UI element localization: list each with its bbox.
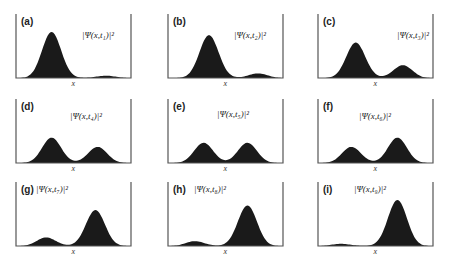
probability-density-area <box>318 138 433 163</box>
x-axis-label: x <box>72 247 76 256</box>
panel-b: (b)|Ψ(x,t₂)|²x <box>152 0 302 84</box>
probability-density-area <box>168 35 283 78</box>
panel-g: (g)|Ψ(x,t₇)|²x <box>0 168 150 252</box>
panel-e: (e)|Ψ(x,t₅)|²x <box>152 85 302 169</box>
density-plot <box>302 0 452 84</box>
panel-c: (c)|Ψ(x,t₃)|²x <box>302 0 452 84</box>
probability-density-area <box>318 43 433 78</box>
density-label: |Ψ(x,t₂)|² <box>234 30 266 40</box>
density-label: |Ψ(x,t₅)|² <box>217 109 249 119</box>
density-label: |Ψ(x,t₁)|² <box>82 30 114 40</box>
density-plot <box>302 85 452 169</box>
x-axis-label: x <box>374 247 378 256</box>
probability-density-area <box>16 210 131 246</box>
density-label: |Ψ(x,t₄)|² <box>70 111 102 121</box>
density-plot <box>152 85 302 169</box>
well-walls <box>16 14 131 78</box>
well-walls <box>318 99 433 163</box>
panel-tag: (d) <box>21 101 34 112</box>
panel-tag: (b) <box>173 16 186 27</box>
density-plot <box>152 0 302 84</box>
probability-density-area <box>168 143 283 163</box>
panel-a: (a)|Ψ(x,t₁)|²x <box>0 0 150 84</box>
panel-tag: (h) <box>173 184 186 195</box>
density-plot <box>152 168 302 252</box>
panel-tag: (e) <box>173 101 185 112</box>
density-plot <box>0 0 150 84</box>
panel-tag: (i) <box>323 184 332 195</box>
density-label: |Ψ(x,t₉)|² <box>354 184 386 194</box>
probability-density-area <box>16 138 131 163</box>
density-plot <box>0 168 150 252</box>
density-label: |Ψ(x,t₈)|² <box>194 184 226 194</box>
density-label: |Ψ(x,t₇)|² <box>36 184 68 194</box>
density-label: |Ψ(x,t₆)|² <box>359 111 391 121</box>
probability-density-area <box>168 206 283 247</box>
panel-d: (d)|Ψ(x,t₄)|²x <box>0 85 150 169</box>
panel-tag: (c) <box>323 16 335 27</box>
panel-h: (h)|Ψ(x,t₈)|²x <box>152 168 302 252</box>
x-axis-label: x <box>224 247 228 256</box>
density-plot <box>0 85 150 169</box>
density-plot <box>302 168 452 252</box>
panel-tag: (g) <box>21 184 34 195</box>
panel-tag: (f) <box>323 101 333 112</box>
probability-density-area <box>318 200 433 246</box>
well-walls <box>318 14 433 78</box>
density-label: |Ψ(x,t₃)|² <box>397 30 429 40</box>
panel-tag: (a) <box>21 16 33 27</box>
panel-i: (i)|Ψ(x,t₉)|²x <box>302 168 452 252</box>
panel-f: (f)|Ψ(x,t₆)|²x <box>302 85 452 169</box>
